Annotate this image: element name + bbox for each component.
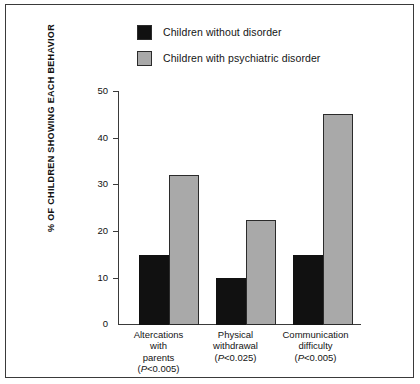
- plot-area: [118, 91, 361, 325]
- y-axis-title: % OF CHILDREN SHOWING EACH BEHAVIOR: [46, 23, 56, 233]
- bar-altercations-without-disorder: [139, 255, 169, 325]
- y-tick-label-0: 0: [78, 318, 108, 329]
- x-category-pvalue: (P<0.005): [109, 363, 208, 374]
- chart-legend: Children without disorder Children with …: [137, 19, 387, 71]
- x-category-label-communication-difficulty: Communication difficulty (P<0.005): [263, 329, 368, 363]
- y-tick-label-40: 40: [78, 132, 108, 143]
- x-category-line-2: difficulty: [263, 340, 368, 351]
- legend-item-children-with-psychiatric-disorder: Children with psychiatric disorder: [137, 45, 387, 71]
- bar-physical-withdrawal-with-disorder: [246, 220, 276, 325]
- bar-communication-difficulty-without-disorder: [293, 255, 323, 325]
- y-tick-label-30: 30: [78, 178, 108, 189]
- y-tick-label-20: 20: [78, 225, 108, 236]
- x-category-pvalue: (P<0.005): [263, 352, 368, 363]
- legend-swatch-dark: [137, 25, 152, 40]
- y-tick-label-10: 10: [78, 272, 108, 283]
- legend-label-children-with-psychiatric-disorder: Children with psychiatric disorder: [163, 52, 320, 64]
- bar-altercations-with-disorder: [169, 175, 199, 325]
- legend-swatch-gray: [137, 51, 152, 66]
- pvalue-text: <0.005): [147, 363, 180, 374]
- y-tick-label-50: 50: [78, 85, 108, 96]
- figure-panel: Children without disorder Children with …: [5, 4, 414, 378]
- bar-physical-withdrawal-without-disorder: [216, 278, 246, 325]
- legend-label-children-without-disorder: Children without disorder: [163, 26, 282, 38]
- x-category-line-1: Communication: [263, 329, 368, 340]
- legend-item-children-without-disorder: Children without disorder: [137, 19, 387, 45]
- bar-communication-difficulty-with-disorder: [323, 114, 353, 325]
